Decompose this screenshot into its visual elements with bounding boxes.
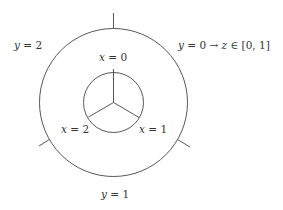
label-y-0-z-range: y = 0 → z ∈ [0, 1] — [177, 39, 270, 51]
label-x-0: x = 0 — [99, 51, 127, 63]
inner-spoke-x2 — [89, 103, 114, 118]
label-x-2: x = 2 — [61, 123, 89, 135]
outer-tick-lower-right — [178, 140, 190, 148]
outer-tick-lower-left — [39, 140, 49, 147]
label-x-1: x = 1 — [139, 123, 167, 135]
inner-spoke-x1 — [114, 103, 140, 118]
label-y-1: y = 1 — [100, 188, 129, 200]
three-region-circle-diagram: y = 2 y = 0 → z ∈ [0, 1] x = 0 x = 2 x =… — [0, 0, 283, 210]
label-y-2: y = 2 — [13, 39, 42, 51]
